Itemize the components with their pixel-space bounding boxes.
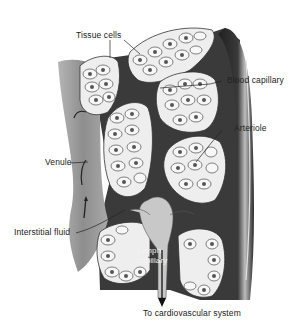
label-arteriole: Arteriole (234, 124, 267, 133)
label-tissue-cells: Tissue cells (76, 31, 121, 40)
label-venule: Venule (45, 158, 72, 167)
label-blood-capillary: Blood capillary (227, 76, 284, 85)
label-lymph: Lymph (137, 247, 161, 255)
label-interstitial-fluid: Interstitial fluid (14, 228, 70, 237)
label-to-cardiovascular-system: To cardiovascular system (143, 309, 241, 318)
label-capillary: capillary (137, 257, 167, 265)
arrow-down-icon (158, 298, 166, 307)
